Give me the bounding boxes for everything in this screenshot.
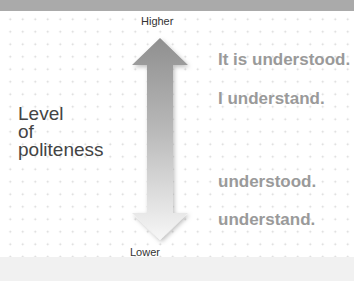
axis-label-line-3: politeness [18,141,104,159]
phrase-2: I understand. [218,89,325,109]
bottom-strip [0,257,354,281]
double-arrow-icon [120,30,200,245]
higher-label: Higher [141,15,173,27]
axis-label: Level of politeness [18,105,104,159]
lower-label: Lower [130,246,160,258]
phrase-4: understand. [218,210,315,230]
phrase-1: It is understood. [218,50,350,70]
top-bar [0,0,354,11]
phrase-3: understood. [218,172,316,192]
